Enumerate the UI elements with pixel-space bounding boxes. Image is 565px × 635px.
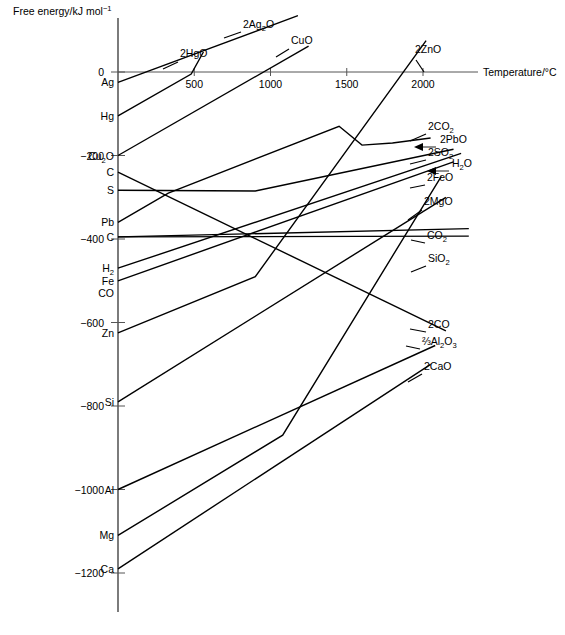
series-line-SiO2	[118, 197, 446, 401]
element-label: Si	[105, 396, 114, 408]
y-axis-title-group: Free energy/kJ mol−1	[13, 4, 112, 17]
chart-canvas: Free energy/kJ mol−1 Temperature/°C 5001…	[0, 0, 565, 635]
element-label: Ag	[101, 76, 114, 88]
y-axis-title: Free energy/kJ mol−1	[13, 4, 112, 17]
y-tick-label: −400	[80, 233, 104, 245]
CO2-leader	[411, 240, 425, 243]
series-line-CO2	[118, 236, 469, 237]
element-label: Mg	[99, 529, 114, 541]
series-line-Al2O3	[118, 346, 435, 490]
series-label-2SO2: 2SO2	[428, 146, 453, 161]
series-label-2FeO: 2FeO	[427, 171, 453, 183]
series-label-2PbO: 2PbO	[440, 133, 467, 145]
SiO2-leader	[411, 266, 426, 272]
series-label-2CO: 2CO	[428, 318, 450, 330]
element-label: S	[107, 184, 114, 196]
2PbO-arrow-head	[414, 143, 423, 151]
series-label-CO2: CO2	[427, 229, 447, 244]
series-line-2FeO	[118, 162, 454, 281]
2FeO-leader	[410, 185, 425, 188]
element-label: Ca	[101, 563, 115, 575]
element-label: C	[106, 166, 114, 178]
series-label-group: 2Ag2O2HgOCuO2ZnO2CO22PbO2SO2H2O2FeO2MgOC…	[180, 18, 472, 372]
series-label-2HgO: 2HgO	[180, 47, 207, 59]
series-label-SiO2: SiO2	[428, 252, 450, 267]
element-label: CO	[98, 287, 114, 299]
element-label: Hg	[101, 110, 115, 122]
ellingham-diagram: Free energy/kJ mol−1 Temperature/°C 5001…	[0, 0, 565, 635]
y-tick-label: −600	[80, 317, 104, 329]
series-line-CuO	[118, 46, 309, 155]
x-tick-label: 1500	[335, 78, 359, 90]
x-tick-group: 500100015002000	[185, 68, 434, 90]
x-axis-group: Temperature/°C	[118, 66, 557, 78]
series-line-2SO2	[118, 149, 454, 191]
series-line-2CaO	[118, 364, 431, 569]
series-line-2PbO	[118, 126, 431, 222]
element-label: Al	[105, 484, 114, 496]
series-line-H2O	[118, 153, 461, 268]
x-axis-title: Temperature/°C	[483, 66, 557, 78]
element-label: Zn	[102, 327, 114, 339]
2ZnO-leader	[416, 60, 424, 72]
series-label-Al2O3: ⅔Al2O3	[422, 335, 457, 350]
element-label: Pb	[101, 216, 114, 228]
element-label: Cu2O	[88, 150, 114, 165]
y-tick-label: −800	[80, 400, 104, 412]
2SO2-leader	[410, 160, 426, 164]
series-label-2ZnO: 2ZnO	[415, 43, 441, 55]
series-group	[118, 16, 469, 569]
x-tick-label: 500	[185, 78, 203, 90]
CuO-leader	[276, 49, 289, 57]
x-tick-label: 2000	[411, 78, 435, 90]
x-tick-label: 1000	[259, 78, 283, 90]
series-label-CuO: CuO	[291, 34, 313, 46]
series-label-2CaO: 2CaO	[424, 360, 451, 372]
element-label: Fe	[102, 275, 114, 287]
series-label-2MgO: 2MgO	[424, 195, 453, 207]
series-label-H2O: H2O	[452, 157, 472, 172]
Al2O3-leader	[406, 346, 420, 349]
y-tick-label: −1000	[75, 484, 105, 496]
element-label: C	[106, 231, 114, 243]
2CO-leader	[410, 329, 426, 332]
